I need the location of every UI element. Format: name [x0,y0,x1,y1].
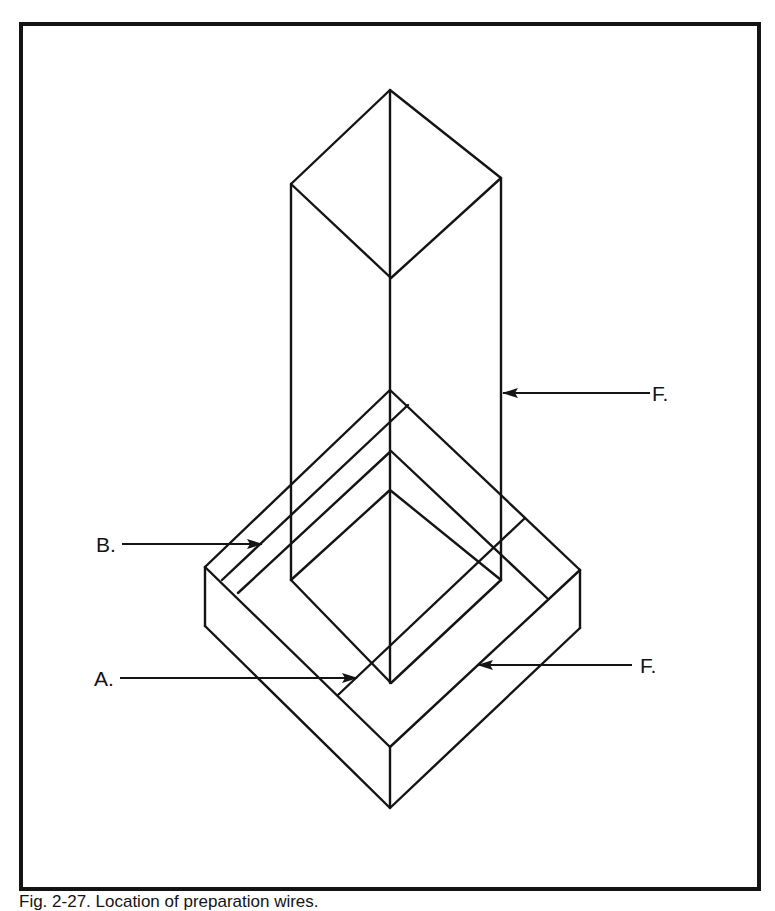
footing-line-a [338,518,525,695]
label-f-lower: F. [640,655,656,676]
figure-caption: Fig. 2-27. Location of preparation wires… [19,893,319,910]
footing-line-b [222,405,408,580]
column [291,90,501,683]
footing-top-front-edges [205,567,580,747]
column-bottom-back-edges [291,490,501,580]
column-bottom-front-edges [291,580,501,683]
column-top-face [291,90,501,278]
label-b: B. [96,534,116,555]
footing-bottom-edges [205,626,580,808]
footing [205,390,580,808]
label-a: A. [94,668,114,689]
label-f-upper: F. [652,383,668,404]
